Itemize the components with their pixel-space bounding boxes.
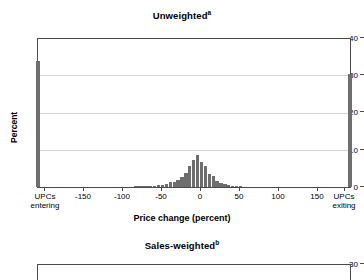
panel-title-sales-weighted-text: Sales-weighted (145, 240, 216, 251)
histogram-bar (137, 186, 140, 187)
sales-weighted-panel: Sales-weightedb 30 (0, 232, 364, 279)
x-mark-5 (239, 188, 240, 191)
x-mark-2 (122, 188, 123, 191)
histogram-bar (215, 181, 218, 187)
x-mark-0 (44, 188, 45, 191)
plot-area-sales-weighted (37, 264, 351, 280)
y-tick-10-mark (360, 149, 364, 150)
y-tick-20-mark (360, 111, 364, 112)
panel-title-unweighted: Unweighteda (0, 9, 364, 21)
x-mark-4 (200, 188, 201, 191)
histogram-bar (239, 186, 242, 187)
plot-area-unweighted (37, 38, 351, 188)
histogram-bar (192, 160, 195, 187)
histogram-bar (145, 186, 148, 187)
histogram-bar (169, 182, 172, 187)
y-tick-bottom-30-mark (360, 263, 364, 264)
x-mark-7 (317, 188, 318, 191)
histogram-bar (219, 183, 222, 187)
panel-title-unweighted-superscript: a (208, 9, 212, 16)
histogram-bar (153, 186, 156, 187)
x-axis-label-price-change: Price change (percent) (0, 213, 364, 223)
panel-title-sales-weighted: Sales-weightedb (0, 239, 364, 251)
y-tick-0-mark (360, 186, 364, 187)
x-tick-upcs-exiting-line1: UPCs (334, 192, 355, 201)
histogram-bar (161, 185, 164, 187)
histogram-bar (157, 185, 160, 187)
x-mark-6 (278, 188, 279, 191)
histogram-bar (180, 177, 183, 187)
x-tick-50: 50 (219, 192, 259, 201)
x-mark-1 (83, 188, 84, 191)
histogram-bar (200, 162, 203, 187)
x-tick-100: 100 (258, 192, 298, 201)
histogram-bar (134, 186, 137, 187)
histogram-bar (235, 186, 238, 187)
x-tick-upcs-exiting-line2: exiting (320, 201, 364, 210)
x-mark-8 (344, 188, 345, 191)
histogram-bar (165, 184, 168, 187)
x-tick-0: 0 (180, 192, 220, 201)
histogram-bar (231, 186, 234, 187)
y-tick-0-label: 0 (354, 183, 360, 192)
x-tick-upcs-entering-line1: UPCs (35, 192, 56, 201)
x-mark-3 (161, 188, 162, 191)
histogram-bar (227, 185, 230, 187)
histogram-bar (149, 186, 152, 187)
y-axis-label-percent: Percent (9, 112, 19, 143)
panel-title-unweighted-text: Unweighted (153, 10, 208, 21)
unweighted-panel: Unweighteda Percent 40 30 20 10 0 UPCsen… (0, 0, 364, 232)
x-tick-neg50: -50 (141, 192, 181, 201)
histogram-bar (212, 176, 215, 187)
histogram-bar (188, 166, 191, 187)
histogram-bar (196, 155, 199, 187)
y-tick-30-mark (360, 74, 364, 75)
x-tick-neg150: -150 (63, 192, 103, 201)
histogram-bar (176, 180, 179, 187)
histogram-bar-edge (36, 61, 39, 187)
histogram-bar (223, 184, 226, 187)
histogram-bars-unweighted (38, 39, 350, 187)
histogram-bar (173, 182, 176, 187)
x-tick-upcs-entering-line2: entering (20, 201, 70, 210)
panel-title-sales-weighted-superscript: b (215, 239, 219, 246)
x-tick-upcs-exiting: UPCsexiting (320, 192, 364, 210)
histogram-bar (184, 173, 187, 187)
histogram-bar (208, 174, 211, 187)
y-tick-40-mark (360, 37, 364, 38)
histogram-bar-edge (348, 74, 351, 187)
histogram-bar (141, 186, 144, 187)
histogram-bar (204, 166, 207, 187)
x-tick-neg100: -100 (102, 192, 142, 201)
